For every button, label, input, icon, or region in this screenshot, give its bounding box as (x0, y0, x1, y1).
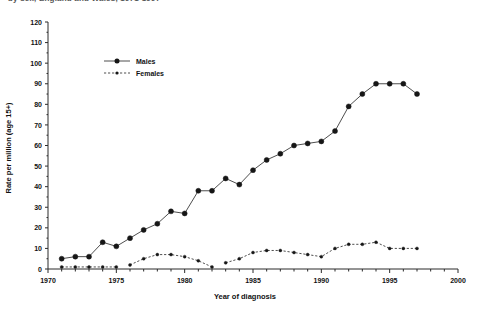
data-point (197, 259, 200, 262)
data-point (361, 243, 364, 246)
data-point (347, 243, 350, 246)
data-point (416, 247, 419, 250)
y-tick-labels: 0102030405060708090100110120 (30, 19, 42, 273)
data-point (183, 255, 186, 258)
series-line (62, 84, 417, 259)
x-tick-label: 2000 (450, 277, 466, 284)
data-series (59, 81, 419, 268)
y-tick-label: 90 (34, 80, 42, 87)
data-point (170, 253, 173, 256)
data-point (387, 81, 392, 86)
data-point (114, 244, 119, 249)
chart-figure: by sex, England and Wales, 1971-1997 010… (0, 0, 482, 311)
data-point (374, 81, 379, 86)
series-females (60, 241, 418, 269)
axes (45, 22, 458, 273)
y-tick-label: 40 (34, 183, 42, 190)
data-point (360, 92, 365, 97)
series-males (59, 81, 419, 261)
data-point (211, 265, 214, 268)
data-point (142, 257, 145, 260)
x-tick-label: 1980 (177, 277, 193, 284)
y-tick-label: 110 (31, 39, 42, 46)
data-point (128, 236, 133, 241)
legend-item-males: Males (104, 58, 156, 65)
data-point (292, 143, 297, 148)
data-point (73, 254, 78, 259)
data-point (251, 168, 256, 173)
legend-item-females: Females (104, 70, 164, 77)
data-point (306, 253, 309, 256)
legend-marker (115, 59, 120, 64)
x-tick-label: 1970 (40, 277, 56, 284)
data-point (305, 141, 310, 146)
data-point (252, 251, 255, 254)
y-tick-label: 50 (34, 163, 42, 170)
y-tick-label: 60 (34, 142, 42, 149)
data-point (265, 249, 268, 252)
data-point (88, 265, 91, 268)
data-point (196, 188, 201, 193)
data-point (415, 92, 420, 97)
data-point (278, 151, 283, 156)
data-point (388, 247, 391, 250)
x-tick-label: 1990 (314, 277, 330, 284)
x-tick-label: 1985 (245, 277, 261, 284)
data-point (224, 261, 227, 264)
data-point (59, 256, 64, 261)
data-point (375, 241, 378, 244)
data-point (279, 249, 282, 252)
data-point (237, 182, 242, 187)
data-point (101, 265, 104, 268)
y-tick-label: 80 (34, 101, 42, 108)
legend-label: Females (136, 70, 164, 77)
x-tick-label: 1995 (382, 277, 398, 284)
data-point (320, 255, 323, 258)
data-point (264, 157, 269, 162)
data-point (129, 263, 132, 266)
y-tick-label: 30 (34, 204, 42, 211)
data-point (210, 188, 215, 193)
data-point (223, 176, 228, 181)
data-point (182, 211, 187, 216)
x-tick-label: 1975 (109, 277, 125, 284)
y-tick-label: 120 (30, 19, 42, 26)
data-point (333, 129, 338, 134)
x-tick-labels: 1970197519801985199019952000 (40, 277, 466, 284)
data-point (141, 227, 146, 232)
x-axis-title: Year of diagnosis (214, 292, 276, 301)
y-tick-label: 100 (30, 60, 42, 67)
data-point (238, 257, 241, 260)
chart-legend: MalesFemales (104, 58, 164, 77)
data-point (87, 254, 92, 259)
data-point (346, 104, 351, 109)
data-point (60, 265, 63, 268)
y-tick-label: 70 (34, 122, 42, 129)
line-chart: 0102030405060708090100110120 19701975198… (0, 0, 482, 311)
data-point (293, 251, 296, 254)
data-point (334, 247, 337, 250)
y-axis-title: Rate per million (age 15+) (4, 102, 13, 194)
y-tick-label: 20 (34, 224, 42, 231)
legend-label: Males (136, 58, 156, 65)
data-point (74, 265, 77, 268)
legend-marker (115, 71, 118, 74)
data-point (169, 209, 174, 214)
y-tick-label: 0 (38, 266, 42, 273)
data-point (100, 240, 105, 245)
y-tick-label: 10 (34, 245, 42, 252)
data-point (155, 221, 160, 226)
data-point (402, 247, 405, 250)
data-point (156, 253, 159, 256)
data-point (319, 139, 324, 144)
data-point (401, 81, 406, 86)
data-point (115, 265, 118, 268)
